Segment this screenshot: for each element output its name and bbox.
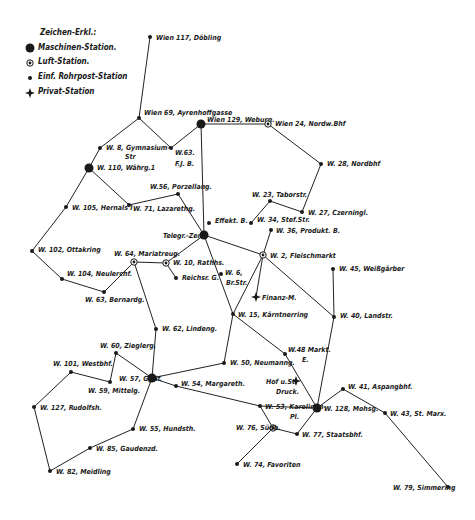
station-label-line2: Pl. [290, 413, 299, 421]
station-w27: W. 27, Czerningl. [300, 209, 368, 217]
connection-line [32, 251, 62, 279]
station-label: W. 8, Gymnasium- [106, 144, 170, 152]
connection-line [129, 194, 178, 205]
station-label: W. 55, Hundsth. [139, 425, 196, 433]
machine-station-icon [197, 120, 206, 129]
connection-line [139, 37, 150, 118]
station-label: W. 60, Zieglerg. [100, 342, 156, 350]
air-station-icon [265, 121, 271, 127]
connection-line [233, 314, 285, 354]
station-w79: W. 79, Simmering [393, 484, 456, 492]
simple-station-icon [383, 411, 387, 415]
station-reichsr: Reichsr. G. [174, 274, 219, 282]
network-edges [32, 37, 448, 487]
station-w28: W. 28, Nordbhf [319, 160, 381, 168]
station-w60: W. 60, Zieglerg. [100, 342, 156, 355]
connection-line [62, 279, 104, 292]
station-label: W. 45, Weißgärber [339, 265, 405, 273]
simple-station-icon [88, 446, 92, 450]
station-w104: W. 104, Neulerchf. [60, 270, 132, 281]
station-w127: W. 127, Rudolfsh. [32, 404, 102, 412]
station-label: Telegr.-Zent. [163, 232, 207, 240]
station-label: Effekt. B. [215, 217, 248, 225]
legend-label: Maschinen-Station. [38, 43, 116, 52]
simple-station-icon [30, 249, 34, 253]
station-label: Wien 24, Nordw.Bhf [275, 120, 347, 128]
legend-label: Luft-Station. [38, 57, 89, 66]
station-label: W.63. [175, 149, 195, 157]
connection-line [178, 194, 204, 235]
simple-station-icon [174, 276, 178, 280]
station-w40: W. 40, Landstr. [332, 312, 393, 320]
simple-station-icon [60, 277, 64, 281]
station-w41: W. 41, Aspangbhf. [341, 383, 412, 391]
simple-station-icon [331, 267, 335, 271]
machine-station-icon [313, 404, 322, 413]
connection-line [385, 413, 448, 487]
machine-station-icon [85, 164, 94, 173]
station-w62: W. 62, Lindeng. [154, 325, 217, 333]
simple-station-icon [332, 315, 336, 319]
station-w105: W. 105, Hernals I [64, 204, 133, 212]
station-label: W. 62, Lindeng. [162, 325, 217, 333]
connection-line [171, 124, 201, 148]
simple-station-icon [219, 272, 223, 276]
simple-station-icon [48, 469, 52, 473]
private-station-icon [25, 88, 35, 98]
network-nodes: Wien 117, DöblingWien 69, Ayrenhoffgasse… [30, 34, 456, 492]
air-station-icon [131, 259, 137, 265]
connection-line [32, 207, 66, 251]
station-label: W.56, Porzellang. [150, 183, 212, 191]
connection-line [224, 314, 233, 363]
simple-station-icon [28, 76, 32, 80]
station-w102: W. 102, Ottakring [30, 246, 101, 254]
station-w76: W. 76, Südb. [236, 424, 281, 432]
simple-station-icon [300, 210, 304, 214]
station-label: W.48 Markt. [288, 346, 331, 354]
connection-line [133, 378, 152, 429]
simple-station-icon [154, 327, 158, 331]
connection-line [34, 372, 71, 407]
connection-line [302, 164, 321, 212]
station-w2: W. 2, Fleischmarkt [260, 252, 337, 260]
station-label: W. 23, Taborstr. [252, 191, 307, 199]
simple-station-icon [319, 162, 323, 166]
station-w57: W. 57, Gpdf. [119, 374, 162, 384]
station-w34: W. 34, Stef.Str. [249, 216, 310, 225]
station-label-line2: Str [125, 153, 137, 161]
station-label: W. 2, Fleischmarkt [270, 252, 337, 260]
connection-line [34, 407, 50, 471]
station-label: W. 104, Neulerchf. [67, 270, 132, 278]
connection-line [89, 168, 129, 205]
connection-line [176, 386, 260, 406]
station-label: W. 34, Stef.Str. [257, 216, 310, 224]
station-label: W. 77, Staatsbhf. [302, 431, 363, 439]
station-label: W. 27, Czerningl. [308, 209, 368, 217]
station-finanz: Finanz-M. [251, 292, 297, 302]
legend: Zeichen-Erkl.: Maschinen-Station. Luft-S… [25, 28, 127, 98]
station-w82: W. 82, Meidling [48, 468, 111, 476]
station-label: Hof u.St. [266, 378, 297, 386]
simple-station-icon [174, 384, 178, 388]
station-w117: Wien 117, Döbling [148, 34, 222, 42]
simple-station-icon [114, 351, 118, 355]
station-label: W. 28, Nordbhf [327, 160, 381, 168]
simple-station-icon [258, 404, 262, 408]
station-w63: W. 63, Bernardg. [85, 290, 145, 304]
station-label: W. 6, [225, 269, 243, 277]
station-w24: Wien 24, Nordw.Bhf [265, 120, 347, 128]
station-label: Finanz-M. [262, 294, 297, 302]
simple-station-icon [231, 312, 235, 316]
simple-station-icon [102, 290, 106, 294]
station-label: W. 41, Aspangbhf. [348, 383, 412, 391]
station-w55: W. 55, Hundsth. [131, 425, 196, 433]
station-label: W. 10, Rathhs. [173, 259, 225, 267]
station-w110: W. 110, Währg.1 [85, 164, 156, 173]
connection-line [317, 317, 334, 408]
station-w8: W. 8, Gymnasium-Str [98, 144, 170, 161]
station-label: W. 105, Hernals I [72, 204, 133, 212]
connection-line [268, 124, 321, 164]
station-label: W. 57, Gpdf. [119, 375, 162, 383]
station-hof: Hof u.St.Druck. [266, 376, 301, 396]
station-w43: W. 43, St. Marx. [383, 410, 446, 418]
